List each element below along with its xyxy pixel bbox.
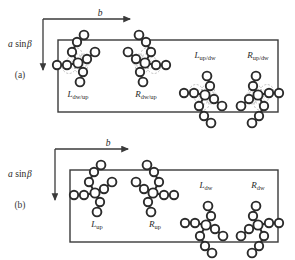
- axis-label-a-sin-beta: asinβ: [8, 39, 32, 49]
- axis-label-sin: sin: [15, 169, 26, 179]
- atom-circle: [155, 178, 163, 186]
- atom-circle: [208, 249, 217, 258]
- atom-circle: [219, 232, 228, 241]
- atom-circle: [147, 208, 156, 217]
- atom-circle: [144, 198, 152, 206]
- panel-b: basinβLupRupLdwRdw(b): [8, 138, 283, 257]
- panel-tag-a: (a): [15, 70, 26, 81]
- molecule-label-l-dw: Ldw: [199, 180, 213, 191]
- molecule-atoms: [132, 161, 179, 217]
- label-subscript: dw/up: [73, 93, 89, 100]
- atom-circle: [80, 191, 88, 199]
- molecule-L-dw: [181, 202, 228, 258]
- molecule-label-r-dw: Rdw: [250, 180, 265, 191]
- molecule-L-dw-up: [53, 31, 100, 87]
- atom-circle: [162, 61, 170, 69]
- axis-label-beta: β: [26, 169, 32, 179]
- molecule-atoms: [70, 161, 117, 217]
- molecule-label-text: Rdw/up: [134, 89, 156, 100]
- atom-circle: [206, 82, 214, 90]
- label-subscript: dw: [205, 184, 213, 191]
- atom-circle: [53, 61, 61, 69]
- atom-circle: [93, 208, 102, 217]
- atom-circle: [265, 219, 273, 227]
- atom-circle: [210, 95, 218, 103]
- atom-circle: [255, 242, 263, 250]
- atom-circle: [108, 178, 117, 187]
- atom-circle: [96, 198, 104, 206]
- figure-canvas: basinβLdw/upRdw/upLup/dwRup/dw(a)basinβL…: [0, 0, 295, 260]
- atom-circle: [135, 31, 144, 40]
- molecule-atoms: [124, 31, 171, 87]
- axis-label-b: b: [106, 138, 111, 148]
- atom-circle: [207, 119, 216, 128]
- atom-circle: [83, 55, 91, 63]
- atom-circle: [140, 58, 149, 67]
- label-subscript: up: [155, 223, 161, 230]
- atom-circle: [265, 89, 273, 97]
- atom-circle: [201, 242, 209, 250]
- atom-circle: [203, 72, 212, 81]
- atom-circle: [190, 89, 198, 97]
- atom-circle: [136, 68, 144, 76]
- atom-circle: [132, 178, 141, 187]
- atom-circle: [170, 191, 178, 199]
- molecule-label-text: Rup/dw: [246, 50, 269, 61]
- atom-circle: [253, 220, 262, 229]
- atom-circle: [211, 225, 219, 233]
- axis-label-a: a: [8, 39, 13, 49]
- label-subscript: dw: [257, 184, 265, 191]
- molecule-label-r-dw-up: Rdw/up: [134, 89, 156, 100]
- molecule-label-text: Lup: [90, 219, 102, 230]
- molecule-label-l-up: Lup: [90, 219, 102, 230]
- atom-circle: [195, 102, 203, 110]
- atom-circle: [160, 191, 168, 199]
- atom-circle: [245, 225, 253, 233]
- atom-circle: [196, 232, 204, 240]
- atom-circle: [260, 232, 268, 240]
- atom-circle: [200, 90, 209, 99]
- molecule-label-text: Ldw/up: [67, 89, 89, 100]
- atom-circle: [252, 202, 261, 211]
- panel-a: basinβLdw/upRdw/upLup/dwRup/dw(a): [8, 8, 283, 127]
- atom-circle: [147, 48, 155, 56]
- molecule-L-up: [70, 161, 117, 217]
- atom-circle: [143, 161, 152, 170]
- axis-label-b: b: [98, 8, 103, 18]
- atom-circle: [73, 58, 82, 67]
- atom-circle: [248, 119, 257, 128]
- atom-circle: [124, 48, 133, 57]
- atom-circle: [191, 219, 199, 227]
- atom-circle: [204, 202, 213, 211]
- atom-circle: [252, 72, 261, 81]
- atom-circle: [140, 185, 148, 193]
- atom-circle: [253, 90, 262, 99]
- atom-circle: [260, 102, 268, 110]
- molecule-R-dw-up: [124, 31, 171, 87]
- atom-circle: [275, 89, 283, 97]
- atom-circle: [152, 61, 160, 69]
- molecule-R-dw: [237, 202, 284, 258]
- atom-circle: [68, 48, 76, 56]
- molecule-R-up-dw: [237, 72, 284, 128]
- atom-circle: [70, 191, 78, 199]
- atom-circle: [132, 55, 140, 63]
- molecule-label-l-up-dw: Lup/dw: [194, 50, 216, 61]
- molecule-label-text: Lup/dw: [194, 50, 216, 61]
- atom-circle: [249, 82, 257, 90]
- molecule-atoms: [181, 202, 228, 258]
- molecule-atoms: [53, 31, 100, 87]
- panel-tag-b: (b): [14, 200, 25, 211]
- molecule-L-up-dw: [180, 72, 227, 128]
- atom-circle: [237, 102, 246, 111]
- atom-circle: [148, 188, 157, 197]
- atom-circle: [90, 188, 99, 197]
- label-subscript: up/dw: [253, 54, 269, 61]
- atom-circle: [201, 220, 210, 229]
- atom-circle: [275, 219, 283, 227]
- atom-circle: [150, 168, 158, 176]
- atom-circle: [90, 168, 98, 176]
- molecule-label-text: Ldw: [199, 180, 213, 191]
- atom-circle: [181, 219, 189, 227]
- label-subscript: dw/up: [141, 93, 157, 100]
